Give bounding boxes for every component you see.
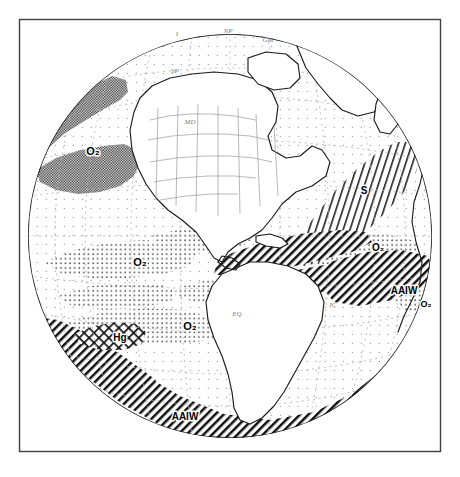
label-aaiw-southeast: AAIW [391,285,418,296]
globe-map-figure: I NP GM SP MD EQ IC O₂ O₂ O₂ O₂ O₂ O₂ AA… [0,0,460,477]
label-aaiw-south-atlantic: AAIW [172,411,199,422]
label-o2-mid-pacific: O₂ [133,256,147,268]
label-s-north-atlantic: S [361,185,368,196]
label-o2-north-pacific: O₂ [86,145,100,157]
label-hg-south-pacific: Hg [113,332,126,343]
figure-root: I NP GM SP MD EQ IC O₂ O₂ O₂ O₂ O₂ O₂ AA… [0,0,460,477]
faint-label-md: MD [184,118,196,126]
label-o2-southeast-atlantic: O₂ [421,299,432,309]
faint-label-arctic-gm: GM [263,36,275,44]
label-o2-south-atlantic: O₂ [372,242,384,253]
faint-label-arctic-np: NP [223,27,234,35]
faint-label-eq: EQ [231,310,241,318]
label-o2-east-pacific: O₂ [183,320,197,332]
faint-label-sp: SP [171,67,180,75]
faint-label-ic: IC [329,301,337,309]
